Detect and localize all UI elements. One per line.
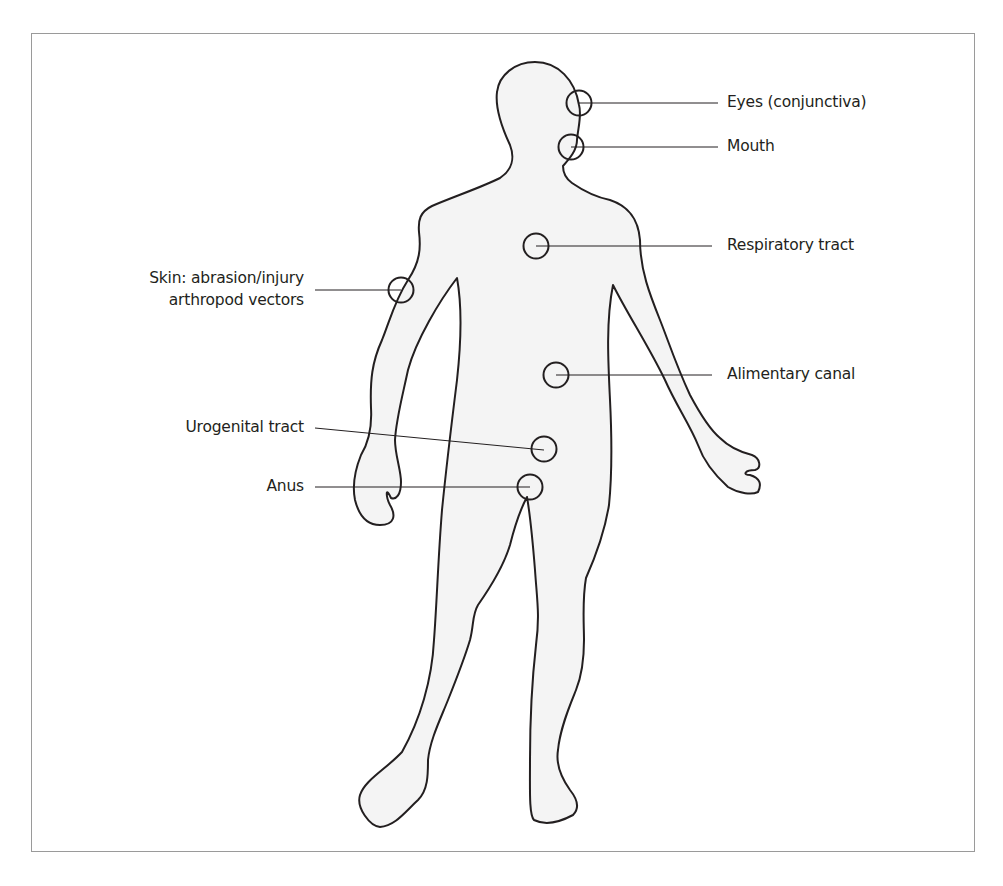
label-respiratory-tract: Respiratory tract — [727, 235, 854, 256]
label-anus: Anus — [266, 476, 304, 497]
label-eyes: Eyes (conjunctiva) — [727, 92, 866, 113]
label-skin-line2: arthropod vectors — [169, 290, 304, 311]
entry-point-anus-marker — [518, 475, 543, 500]
label-alimentary-canal: Alimentary canal — [727, 364, 855, 385]
entry-point-urogenital-marker — [532, 437, 557, 462]
label-urogenital-tract: Urogenital tract — [185, 417, 304, 438]
human-body-outline — [354, 62, 760, 827]
label-mouth: Mouth — [727, 136, 775, 157]
entry-point-eyes-marker — [567, 91, 592, 116]
entry-point-skin-marker — [389, 278, 414, 303]
entry-point-mouth-marker — [559, 135, 584, 160]
body-diagram — [0, 0, 1003, 886]
diagram-canvas: Eyes (conjunctiva) Mouth Respiratory tra… — [0, 0, 1003, 886]
label-skin-line1: Skin: abrasion/injury — [149, 268, 304, 289]
entry-point-alimentary-marker — [544, 363, 569, 388]
entry-point-respiratory-marker — [524, 234, 549, 259]
